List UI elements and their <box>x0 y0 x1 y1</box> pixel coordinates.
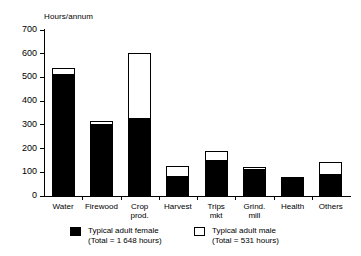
legend-entry-male: Typical adult male (Total = 531 hours) <box>194 226 279 245</box>
bar-total <box>52 68 75 196</box>
y-tick-label: 600 <box>22 48 37 59</box>
bar-total <box>90 121 113 196</box>
bar-segment-female <box>128 118 151 196</box>
x-category-label: Water <box>44 203 82 212</box>
x-category-label: Grind. mill <box>235 203 273 220</box>
x-tick-mark <box>235 196 236 200</box>
x-category-label: Harvest <box>159 203 197 212</box>
x-tick-mark <box>159 196 160 200</box>
plot-area: 0100200300400500600700 <box>44 30 350 196</box>
y-axis-title: Hours/annum <box>44 12 93 22</box>
y-tick-label: 700 <box>22 24 37 35</box>
x-category-label: Health <box>274 203 312 212</box>
y-tick-mark <box>40 148 44 149</box>
x-category-label: Others <box>312 203 350 212</box>
bar-chart-figure: Hours/annum 0100200300400500600700 Typic… <box>0 0 361 256</box>
bar-segment-female <box>52 74 75 196</box>
legend-swatch-female-icon <box>70 227 81 236</box>
x-tick-mark <box>82 196 83 200</box>
bar-segment-female <box>243 169 266 196</box>
bar-segment-female <box>166 176 189 196</box>
y-tick-label: 300 <box>22 119 37 130</box>
x-tick-mark <box>312 196 313 200</box>
y-tick-label: 0 <box>32 190 37 201</box>
legend-label-female: Typical adult female <box>88 226 162 236</box>
legend-label-male: Typical adult male <box>212 226 279 236</box>
bar-total <box>128 53 151 196</box>
x-tick-mark <box>197 196 198 200</box>
y-tick-mark <box>40 196 44 197</box>
y-tick-mark <box>40 77 44 78</box>
x-category-label: Firewood <box>82 203 120 212</box>
chart-legend: Typical adult female (Total = 1 648 hour… <box>70 226 350 252</box>
legend-entry-female: Typical adult female (Total = 1 648 hour… <box>70 226 162 245</box>
legend-total-male: (Total = 531 hours) <box>212 236 279 246</box>
bar-total <box>281 177 304 196</box>
y-tick-label: 400 <box>22 95 37 106</box>
y-tick-label: 500 <box>22 71 37 82</box>
bar-total <box>319 162 342 196</box>
x-category-label: Crop prod. <box>121 203 159 220</box>
bar-segment-female <box>205 160 228 196</box>
y-tick-label: 100 <box>22 166 37 177</box>
x-tick-mark <box>121 196 122 200</box>
legend-swatch-male-icon <box>194 227 205 236</box>
y-tick-mark <box>40 101 44 102</box>
y-tick-mark <box>40 172 44 173</box>
bar-segment-female <box>281 178 304 196</box>
bar-total <box>166 166 189 196</box>
bar-segment-female <box>90 124 113 196</box>
bar-total <box>205 151 228 196</box>
bar-total <box>243 167 266 196</box>
bar-segment-female <box>319 174 342 196</box>
y-tick-mark <box>40 124 44 125</box>
x-category-label: Trips mkt <box>197 203 235 220</box>
x-tick-mark <box>274 196 275 200</box>
legend-total-female: (Total = 1 648 hours) <box>88 236 162 246</box>
y-tick-label: 200 <box>22 143 37 154</box>
y-tick-mark <box>40 53 44 54</box>
y-tick-mark <box>40 30 44 31</box>
